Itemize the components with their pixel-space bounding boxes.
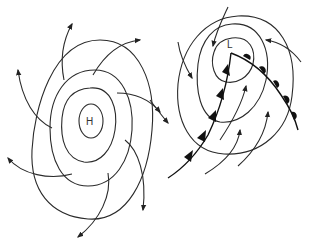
wind-arrow [18, 70, 52, 128]
wind-arrow [266, 40, 301, 62]
cold-front-triangles [184, 64, 230, 162]
isobar-low-1 [213, 38, 254, 83]
low-center-label: L [227, 39, 233, 50]
cold-front [168, 53, 231, 178]
high-center-label: H [86, 116, 93, 127]
low-pressure-system: L [150, 7, 301, 178]
wind-arrow [93, 40, 140, 75]
warm-front [231, 53, 298, 130]
diagram-canvas: H L [0, 0, 309, 245]
high-pressure-system: H [8, 24, 160, 237]
wind-arrow [62, 24, 72, 80]
wind-arrow [125, 140, 144, 210]
pressure-systems-diagram: H L [0, 0, 309, 245]
wind-arrow [238, 112, 268, 166]
wind-arrow [117, 93, 160, 112]
